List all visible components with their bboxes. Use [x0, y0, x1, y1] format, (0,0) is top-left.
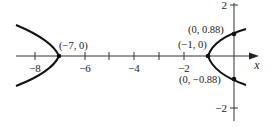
y-tick-label-2: 2	[222, 0, 228, 11]
y-axis: 2 −2	[215, 0, 238, 121]
x-tick-label-m6: −6	[79, 62, 91, 74]
x-tick-label-m8: −8	[29, 62, 41, 74]
y-tick-label-m2: −2	[215, 102, 227, 114]
label-point-0-m0.88: (0, −0.88)	[179, 74, 221, 86]
point-m7-0	[57, 54, 62, 59]
label-point-m1-0: (−1, 0)	[178, 39, 207, 51]
point-0-m0.88	[232, 77, 237, 82]
x-tick-label-m4: −4	[128, 62, 140, 74]
label-point-m7-0: (−7, 0)	[59, 40, 88, 52]
x-tick-label-m2: −2	[178, 62, 190, 74]
label-point-0-0.88: (0, 0.88)	[188, 24, 224, 36]
hyperbola-chart: −8 −6 −4 −2 x 2 −2 (−7, 0) (−1, 0) (0, 0…	[0, 0, 275, 127]
x-axis: −8 −6 −4 −2 x	[16, 52, 260, 74]
point-m1-0	[206, 54, 211, 59]
point-0-0.88	[232, 32, 237, 37]
x-axis-label: x	[253, 58, 260, 72]
